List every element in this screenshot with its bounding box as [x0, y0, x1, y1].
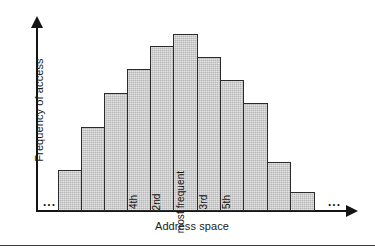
- right-ellipsis: ...: [328, 196, 341, 208]
- histogram-bar-6: most frequent: [173, 34, 198, 211]
- histogram-bar-9: [243, 103, 268, 211]
- histogram-bar-4: 4th: [127, 69, 151, 211]
- histogram-bar-2: [81, 127, 105, 211]
- histogram-bar-11: [290, 192, 315, 211]
- histogram-bar-4-label: 4th: [128, 195, 139, 209]
- left-ellipsis: ...: [43, 196, 56, 208]
- histogram-bar-10: [267, 162, 291, 211]
- histogram-figure: Frequency of access Address space 4th2nd…: [0, 0, 375, 252]
- histogram-bar-8: 5th: [220, 80, 244, 211]
- histogram-bar-6-label: most frequent: [175, 171, 186, 233]
- page-divider: [0, 245, 375, 246]
- plot-area: 4th2ndmost frequent3rd5th: [0, 0, 375, 252]
- histogram-bar-7: 3rd: [197, 57, 221, 211]
- histogram-bar-5: 2nd: [150, 46, 174, 211]
- histogram-bar-7-label: 3rd: [198, 195, 209, 210]
- histogram-bar-5-label: 2nd: [151, 194, 162, 211]
- histogram-bar-8-label: 5th: [221, 195, 232, 209]
- histogram-bar-1: [58, 170, 82, 211]
- histogram-bar-3: [104, 93, 128, 211]
